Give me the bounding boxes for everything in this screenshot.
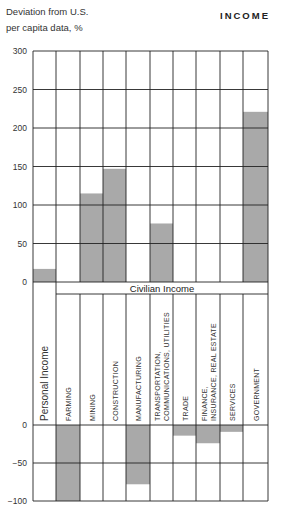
category-label: Personal Income	[39, 346, 50, 421]
bar-negative	[196, 425, 220, 443]
category-label: MINING	[89, 394, 96, 421]
bar-positive	[33, 269, 56, 282]
category-label: GOVERNMENT	[253, 367, 260, 421]
bar-negative	[220, 425, 243, 432]
y-tick-label: 150	[13, 162, 27, 172]
y-tick-label: −50	[13, 458, 28, 468]
category-label: COMMUNICATIONS, UTILITIES	[163, 312, 170, 421]
category-label: FINANCE,	[201, 386, 208, 421]
civilian-income-label: Civilian Income	[130, 283, 194, 294]
y-tick-label: 0	[22, 277, 27, 287]
category-label: FARMING	[65, 387, 72, 421]
bar-negative	[126, 425, 150, 484]
y-tick-label: −100	[8, 496, 27, 506]
bar-positive	[243, 112, 268, 282]
category-label: TRANSPORTATION,	[154, 351, 161, 421]
bar-positive	[80, 193, 103, 282]
y-tick-label: 250	[13, 85, 27, 95]
bar-negative	[173, 425, 196, 436]
bar-chart: 050100150200250300Civilian IncomePersona…	[0, 0, 282, 519]
bar-positive	[150, 223, 173, 282]
category-label: MANUFACTURING	[135, 356, 142, 421]
category-label: INSURANCE, REAL ESTATE	[210, 323, 217, 421]
y-tick-label: 300	[13, 46, 27, 56]
y-tick-label: 100	[13, 200, 27, 210]
category-label: TRADE	[182, 396, 189, 421]
y-tick-label: 0	[22, 420, 27, 430]
y-tick-label: 50	[18, 239, 28, 249]
category-label: CONSTRUCTION	[112, 361, 119, 421]
category-label: SERVICES	[229, 383, 236, 421]
bar-positive	[103, 169, 126, 282]
y-tick-label: 200	[13, 123, 27, 133]
